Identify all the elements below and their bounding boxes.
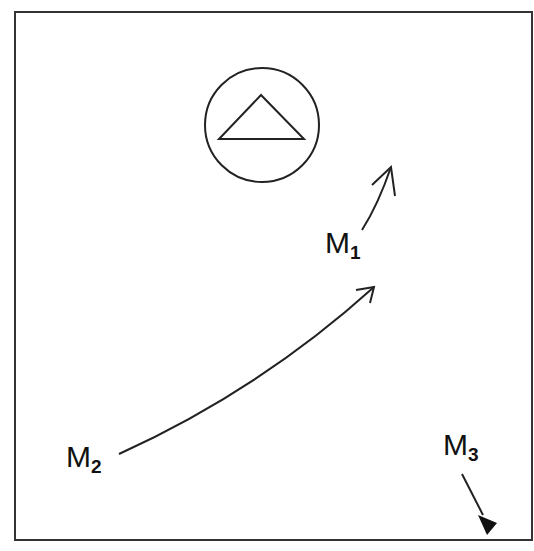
landmark-icon [205, 68, 319, 182]
arrow-m3-head-icon [478, 515, 497, 535]
label-m1-sub: 1 [350, 242, 361, 263]
label-m1: M1 [325, 228, 361, 262]
arrow-m1-shaft [362, 167, 391, 230]
arrow-m2-shaft [119, 287, 374, 454]
landmark-circle [205, 68, 319, 182]
label-m1-letter: M [325, 226, 350, 259]
arrow-m3-shaft [462, 474, 483, 515]
label-m2: M2 [66, 442, 102, 476]
label-m3-letter: M [443, 428, 468, 461]
label-m2-sub: 2 [91, 456, 102, 477]
triangle-icon [219, 95, 304, 139]
arrow-m2 [119, 287, 374, 454]
arrow-m3 [462, 474, 497, 535]
label-m3: M3 [443, 430, 479, 464]
label-m2-letter: M [66, 440, 91, 473]
arrow-m1-head-icon [372, 167, 395, 196]
arrow-m1 [362, 167, 395, 230]
label-m3-sub: 3 [468, 444, 479, 465]
